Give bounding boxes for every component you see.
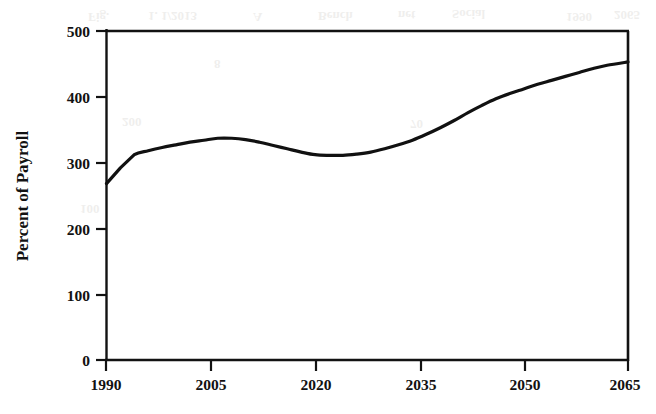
x-tick-label: 1990 [91,376,122,393]
x-tick-label: 2065 [610,376,641,393]
y-tick-label: 300 [67,155,91,172]
y-tick-label: 0 [82,352,90,369]
line-chart: 500 400 300 200 100 0 1990 2005 2020 203… [0,0,656,414]
y-axis-title: Percent of Payroll [13,130,32,261]
x-axis-ticks [106,360,628,371]
chart-figure: Fig.1. 1/2013ABenchnetSocial199020652007… [0,0,656,414]
x-tick-label: 2050 [510,376,541,393]
x-tick-label: 2020 [301,376,332,393]
y-tick-label: 100 [67,287,91,304]
y-axis-ticks [96,31,106,360]
y-tick-label: 500 [67,23,91,40]
series-line-percent-of-payroll [107,62,629,184]
x-axis-tick-labels: 1990 2005 2020 2035 2050 2065 [91,376,641,393]
data-series-group [107,62,629,184]
y-tick-label: 400 [67,89,91,106]
x-tick-label: 2005 [196,376,227,393]
y-tick-label: 200 [67,221,91,238]
x-tick-label: 2035 [406,376,437,393]
y-axis-tick-labels: 500 400 300 200 100 0 [67,23,91,369]
plot-frame [105,29,629,361]
